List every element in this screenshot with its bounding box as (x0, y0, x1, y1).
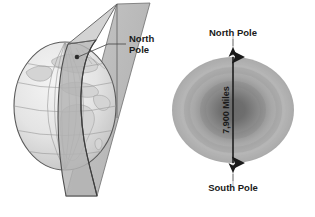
globe-panel: North Pole (14, 3, 155, 196)
globe-north-pole-label-line2: Pole (129, 44, 149, 55)
earth-shape-figure: North Pole 7,900 Miles North Pole (0, 0, 315, 217)
ellipse-north-pole-label: North Pole (209, 27, 257, 38)
globe-north-pole-label-line1: North (129, 33, 155, 44)
landmass-madagascar (95, 139, 102, 150)
polar-diameter-label: 7,900 Miles (221, 86, 231, 134)
ellipse-south-pole-label: South Pole (208, 182, 258, 193)
ellipse-panel: 7,900 Miles North Pole South Pole (172, 27, 294, 193)
figure-canvas: North Pole 7,900 Miles North Pole (0, 0, 315, 217)
